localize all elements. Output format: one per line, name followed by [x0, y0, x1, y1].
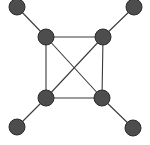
node-outer-br	[125, 120, 141, 136]
edges-layer	[17, 7, 134, 128]
node-inner-bl	[38, 90, 54, 106]
graph-diagram	[0, 0, 150, 145]
edge-inner-tr-inner-br	[102, 37, 103, 98]
node-inner-tl	[38, 29, 54, 45]
node-outer-bl	[9, 119, 25, 135]
node-inner-br	[94, 90, 110, 106]
node-inner-tr	[95, 29, 111, 45]
node-outer-tl	[9, 0, 25, 15]
node-outer-tr	[126, 0, 142, 15]
